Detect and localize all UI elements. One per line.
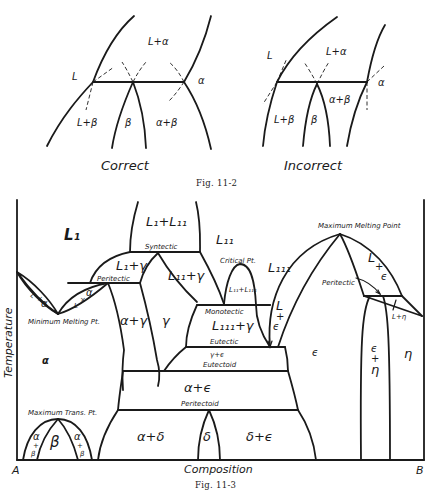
phase-label-epsilon: ϵ: [312, 347, 318, 358]
annotation-maximum-melting-point: Maximum Melting Point: [318, 222, 401, 230]
phase-diagram-figures: L L+α α L+β β α+β Correct L L+α α L+β β …: [0, 0, 435, 497]
phase-label: β: [310, 114, 318, 125]
phase-label-L-eps-right-eps: ϵ: [381, 271, 387, 282]
epsilon-liquidus: [269, 234, 402, 347]
phase-label-plus: ×: [80, 296, 86, 304]
critical-point-dome: [224, 264, 256, 305]
L-eta-arrow: [393, 300, 396, 310]
metastable-extension: [263, 82, 277, 104]
gamma-eutectoid-boundary: [164, 347, 186, 371]
epsilon-eta-left-boundary: [361, 296, 370, 460]
annotation-peritectic-right: Peritectic: [322, 279, 355, 287]
phase-label-L3: L₁₁₁: [268, 260, 291, 275]
metastable-extension: [122, 62, 133, 82]
phase-label-gamma-epsilon: γ+ϵ: [210, 351, 224, 359]
phase-label-L2: L₁₁: [216, 232, 234, 247]
metastable-extension: [317, 62, 329, 84]
metastable-extension: [169, 82, 184, 101]
annotation-eutectoid: Eutectoid: [203, 361, 237, 369]
phase-label: L+α: [148, 36, 169, 47]
metastable-extension: [277, 58, 287, 82]
annotation-critical-pt: Critical Pt.: [220, 257, 256, 265]
phase-label-L-eps-left-eps: ϵ: [273, 321, 279, 332]
diagram-title-incorrect: Incorrect: [284, 158, 343, 173]
phase-label-L3-gamma: L₁₁₁+γ: [212, 318, 255, 333]
annotation-peritectic-left: Peritectic: [97, 275, 130, 283]
phase-label-L-alpha-right-alpha: α: [86, 287, 93, 298]
annotation-minimum-melting-pt: Minimum Melting Pt.: [28, 318, 100, 326]
beta-right-boundary: [133, 82, 146, 148]
phase-label-beta: β: [49, 433, 60, 451]
axis-end-A: A: [11, 464, 20, 477]
phase-label: α: [378, 77, 385, 88]
L-alpha-loop-left: [17, 272, 58, 314]
annotation-eutectic: Eutectic: [210, 338, 238, 346]
y-axis-label: Temperature: [2, 307, 15, 378]
epsilon-solvus-upper: [285, 347, 288, 371]
phase-label-alpha: α: [42, 355, 49, 366]
figure-caption-11-3: Fig. 11-3: [195, 480, 236, 490]
epsilon-eta-right-boundary: [383, 296, 390, 460]
diagram-title-correct: Correct: [101, 158, 150, 173]
epsilon-solvus-lower: [298, 410, 316, 460]
phase-label-alpha-epsilon: α+ϵ: [184, 380, 211, 395]
phase-label-L2-gamma: L₁₁+γ: [168, 268, 206, 283]
phase-label-ab-right-b: β: [80, 450, 85, 458]
beta-left-boundary: [112, 82, 133, 148]
phase-label: β: [124, 117, 132, 128]
phase-label-gamma: γ: [162, 313, 171, 328]
phase-label: L+α: [326, 46, 347, 57]
phase-label-eta: η: [404, 346, 412, 361]
phase-label: L+β: [274, 114, 295, 125]
phase-label-L1-gamma: L₁+γ: [116, 258, 148, 273]
phase-label-L-eta: L+η: [392, 313, 407, 321]
phase-label: L+β: [77, 117, 98, 128]
gamma-solvus-right: [186, 305, 197, 347]
phase-label: α+β: [329, 94, 351, 105]
phase-label-delta: δ: [203, 429, 211, 444]
axis-end-B: B: [416, 464, 424, 477]
annotation-maximum-trans-pt: Maximum Trans. Pt.: [28, 409, 97, 417]
fig-11-3-diagram: L₁ L₁+L₁₁ L₁₁ Syntectic L₁+γ Peritectic …: [2, 200, 424, 477]
epsilon-solvus-mid: [288, 371, 298, 410]
figure-caption-11-2: Fig. 11-2: [196, 178, 237, 188]
epsilon-solidus-left: [278, 234, 340, 347]
phase-label: α: [198, 75, 205, 86]
alpha-solvus: [108, 283, 124, 390]
phase-label-eps-eta-eta: η: [371, 362, 379, 377]
phase-label-ab-left-b: β: [31, 450, 36, 458]
annotation-monotectic: Monotectic: [205, 308, 244, 316]
fig-11-2-correct-diagram: L L+α α L+β β α+β Correct: [47, 16, 211, 173]
phase-label-alpha-delta: α+δ: [137, 429, 164, 444]
phase-label-L2-L3: L₁₁+L₁₁₁: [229, 286, 257, 294]
phase-label-ab-right-plus: +: [77, 442, 83, 450]
metastable-extension: [304, 62, 317, 84]
phase-label: α+β: [156, 117, 178, 128]
alpha-solvus-lower: [118, 371, 123, 410]
alpha-delta-boundary: [98, 410, 118, 460]
L-alpha-loop-left-lower: [17, 272, 58, 314]
miscibility-gap-right: [196, 202, 200, 252]
phase-label-ab-left-a: α: [33, 431, 40, 442]
phase-label-ab-left-plus: +: [33, 442, 39, 450]
phase-label-L-alpha-right: L: [74, 302, 78, 310]
metastable-extension: [169, 62, 184, 82]
metastable-extension: [133, 62, 146, 82]
phase-label-L1: L₁: [64, 226, 80, 244]
phase-label: L: [72, 71, 78, 82]
phase-label-L-alpha-left-alpha: α: [41, 298, 48, 309]
phase-label-delta-epsilon: δ+ϵ: [246, 429, 273, 444]
phase-label-alpha-gamma: α+γ: [120, 313, 148, 328]
miscibility-gap-left: [130, 202, 138, 252]
x-axis-label: Composition: [184, 463, 253, 476]
fig-11-2-incorrect-diagram: L L+α α L+β β α+β Incorrect: [263, 17, 385, 173]
annotation-peritectoid: Peritectoid: [181, 400, 219, 408]
annotation-syntectic: Syntectic: [145, 243, 178, 251]
phase-label-ab-right-a: α: [74, 431, 81, 442]
phase-label: L: [267, 50, 273, 61]
phase-label-L1-L2: L₁+L₁₁: [146, 214, 187, 229]
